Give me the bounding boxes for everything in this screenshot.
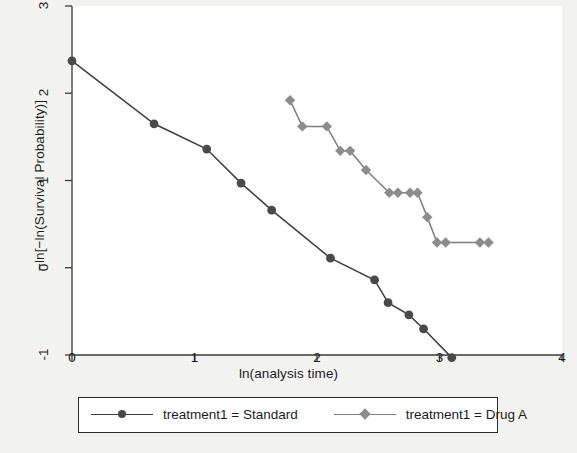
legend-label-standard: treatment1 = Standard [163, 408, 298, 422]
data-point-circle [404, 310, 413, 319]
x-tick-label: 0 [68, 350, 76, 365]
data-point-circle [326, 254, 335, 263]
legend-entry-drug-a: treatment1 = Drug A [334, 408, 527, 422]
legend-label-drug-a: treatment1 = Drug A [406, 408, 527, 422]
legend-entry-standard: treatment1 = Standard [91, 408, 298, 422]
x-tick-label: 3 [436, 350, 444, 365]
data-point-circle [150, 119, 159, 128]
y-tick-label: -1 [36, 340, 51, 370]
y-tick-label: 3 [36, 0, 51, 21]
legend-key-drug-a [334, 408, 396, 422]
survival-plot-figure: 01234 -10123 ln(analysis time) −ln[−ln(S… [0, 0, 577, 453]
data-point-circle [447, 353, 456, 362]
x-axis-title: ln(analysis time) [0, 366, 577, 381]
chart-legend: treatment1 = Standard treatment1 = Drug … [78, 397, 498, 433]
data-point-circle [237, 179, 246, 188]
data-point-circle [370, 276, 379, 285]
data-point-circle [68, 57, 77, 66]
data-point-circle [384, 298, 393, 307]
legend-key-standard [91, 408, 153, 422]
plot-canvas [0, 0, 577, 453]
circle-marker-icon [118, 410, 126, 418]
plot-area-background [72, 6, 562, 355]
data-point-circle [202, 145, 211, 154]
diamond-marker-icon [359, 409, 370, 420]
x-tick-label: 1 [191, 350, 199, 365]
data-point-circle [267, 206, 276, 215]
x-tick-label: 4 [558, 350, 566, 365]
y-axis-title: −ln[−ln(Survival Probability)] [32, 41, 47, 331]
x-tick-label: 2 [313, 350, 321, 365]
data-point-circle [419, 324, 428, 333]
